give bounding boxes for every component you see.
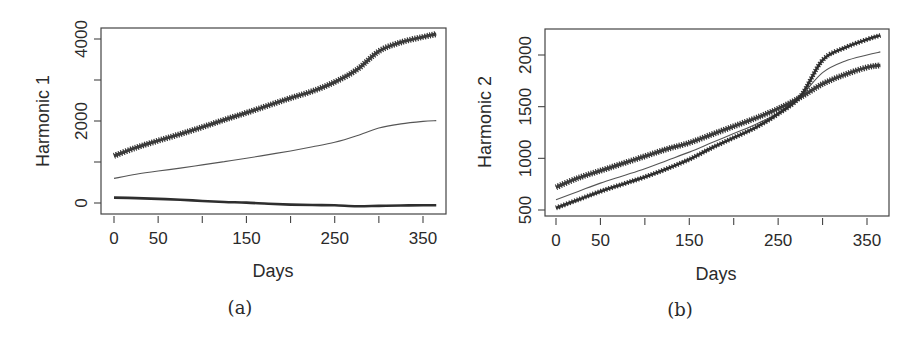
series-group-b bbox=[556, 35, 880, 208]
series-line-star bbox=[114, 34, 436, 156]
y-axis-a: 020004000 bbox=[72, 20, 101, 208]
y-tick-label: 4000 bbox=[72, 20, 91, 58]
series-group-a bbox=[114, 34, 436, 206]
x-tick-label: 50 bbox=[149, 229, 168, 248]
x-tick-label: 350 bbox=[853, 231, 881, 250]
y-tick-label: 2000 bbox=[516, 36, 535, 74]
x-tick-label: 0 bbox=[551, 231, 560, 250]
y-axis-title-a: Harmonic 1 bbox=[33, 75, 53, 167]
series-line-thin bbox=[556, 52, 880, 200]
series-line-star-core bbox=[114, 34, 436, 156]
plot-frame-b bbox=[545, 29, 889, 216]
y-axis-b: 500100015002000 bbox=[516, 36, 545, 224]
y-tick-label: 0 bbox=[72, 198, 91, 207]
x-tick-label: 50 bbox=[591, 231, 610, 250]
x-tick-label: 350 bbox=[409, 229, 437, 248]
y-axis-title-b: Harmonic 2 bbox=[475, 76, 495, 168]
panel-a: 020004000 050150250350 Days Harmonic 1 (… bbox=[33, 20, 446, 318]
x-axis-title-b: Days bbox=[695, 264, 736, 284]
x-tick-label: 150 bbox=[675, 231, 703, 250]
series-line-thin bbox=[114, 121, 436, 179]
caption-a: (a) bbox=[228, 297, 253, 318]
y-tick-label: 500 bbox=[516, 196, 535, 224]
caption-b: (b) bbox=[667, 299, 693, 320]
series-line-star-core bbox=[556, 65, 880, 187]
y-tick-label: 1000 bbox=[516, 139, 535, 177]
x-axis-b: 050150250350 bbox=[551, 218, 881, 250]
plot-frame-a bbox=[101, 28, 446, 214]
x-axis-a: 050150250350 bbox=[109, 216, 437, 248]
y-tick-label: 1500 bbox=[516, 88, 535, 126]
y-tick-label: 2000 bbox=[72, 102, 91, 140]
x-tick-label: 250 bbox=[321, 229, 349, 248]
series-line-thick bbox=[114, 198, 436, 207]
x-tick-label: 150 bbox=[232, 229, 260, 248]
x-tick-label: 250 bbox=[764, 231, 792, 250]
panel-b: 500100015002000 050150250350 Days Harmon… bbox=[475, 29, 889, 320]
figure-canvas: 020004000 050150250350 Days Harmonic 1 (… bbox=[0, 0, 924, 339]
x-axis-title-a: Days bbox=[252, 261, 293, 281]
x-tick-label: 0 bbox=[109, 229, 118, 248]
